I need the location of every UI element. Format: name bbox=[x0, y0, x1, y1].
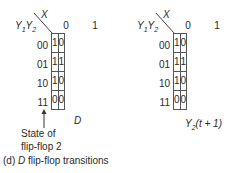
cell: 0 bbox=[180, 34, 187, 53]
cell: 0 bbox=[180, 91, 187, 110]
cell: 1 bbox=[52, 34, 59, 53]
cell: 1 bbox=[174, 53, 181, 72]
table-row: 1 0 bbox=[52, 34, 65, 53]
cell: 0 bbox=[58, 34, 65, 53]
row-header-11: 11 bbox=[154, 97, 170, 108]
col-var-label: X bbox=[163, 9, 170, 20]
arrow-note-line1: State of bbox=[21, 128, 55, 139]
col-var-label: X bbox=[41, 9, 48, 20]
table-row: 1 0 bbox=[174, 34, 187, 53]
row-header-01: 01 bbox=[154, 59, 170, 70]
cell: 0 bbox=[58, 91, 65, 110]
table-row: 1 0 bbox=[174, 72, 187, 91]
arrow-note-line2: flip-flop 2 bbox=[21, 141, 62, 152]
cell: 0 bbox=[180, 72, 187, 91]
cell: 0 bbox=[52, 91, 59, 110]
table-row: 1 1 bbox=[174, 53, 187, 72]
cell: 1 bbox=[180, 53, 187, 72]
col-header-0: 0 bbox=[52, 20, 80, 31]
kmap-grid: 1 0 1 1 1 0 0 0 bbox=[51, 33, 65, 110]
row-header-10: 10 bbox=[32, 78, 48, 89]
figure-caption: (d) D flip-flop transitions bbox=[3, 155, 109, 166]
row-var-label: Y1Y2 bbox=[15, 20, 36, 33]
table-row: 0 0 bbox=[52, 91, 65, 110]
col-header-0: 0 bbox=[174, 20, 202, 31]
cell: 1 bbox=[52, 53, 59, 72]
cell: 1 bbox=[58, 53, 65, 72]
kmap-title: Y2(t + 1) bbox=[185, 118, 222, 131]
cell: 1 bbox=[174, 72, 181, 91]
row-header-00: 00 bbox=[32, 40, 48, 51]
col-header-1: 1 bbox=[81, 20, 109, 31]
row-header-01: 01 bbox=[32, 59, 48, 70]
kmap-title: D bbox=[74, 115, 81, 126]
row-header-10: 10 bbox=[154, 78, 170, 89]
kmap-grid: 1 0 1 1 1 0 0 0 bbox=[173, 33, 187, 110]
cell: 1 bbox=[52, 72, 59, 91]
table-row: 1 1 bbox=[52, 53, 65, 72]
cell: 1 bbox=[174, 34, 181, 53]
row-header-11: 11 bbox=[32, 97, 48, 108]
row-var-label: Y1Y2 bbox=[137, 20, 158, 33]
row-header-00: 00 bbox=[154, 40, 170, 51]
table-row: 0 0 bbox=[174, 91, 187, 110]
table-row: 1 0 bbox=[52, 72, 65, 91]
cell: 0 bbox=[58, 72, 65, 91]
arrow-up-icon bbox=[40, 109, 48, 129]
cell: 0 bbox=[174, 91, 181, 110]
col-header-1: 1 bbox=[203, 20, 231, 31]
